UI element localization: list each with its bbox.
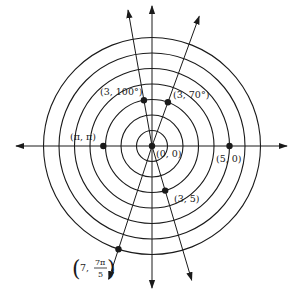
- label-7-7pi-over-5: ( 7, 7π 5 ): [72, 256, 116, 281]
- point-pi-pi: [100, 143, 106, 149]
- point-3-100deg: [141, 97, 147, 103]
- ray-100deg: [128, 10, 152, 146]
- label-origin: (0, 0): [156, 148, 182, 159]
- point-7-7pi-over-5: [115, 246, 121, 252]
- ray-5rad: [152, 146, 192, 280]
- label-3-5rad: (3, 5): [174, 193, 200, 204]
- point-origin: [149, 143, 155, 149]
- polar-diagram: (0, 0) (5, 0) (π, π) (3, 100°) (3, 70°) …: [0, 0, 294, 292]
- label-fraction-close-paren: ): [107, 256, 116, 281]
- point-3-70deg: [165, 99, 171, 105]
- label-fraction-denominator: 5: [98, 270, 103, 279]
- label-3-100deg: (3, 100°): [100, 86, 142, 97]
- point-3-5rad: [162, 187, 168, 193]
- polar-grid-canvas: (0, 0) (5, 0) (π, π) (3, 100°) (3, 70°) …: [0, 0, 294, 292]
- point-5-0: [226, 143, 232, 149]
- label-5-0: (5, 0): [216, 153, 242, 164]
- label-pi-pi: (π, π): [70, 131, 96, 142]
- label-fraction-numerator: 7π: [95, 258, 105, 267]
- label-fraction-prefix: 7,: [80, 262, 89, 273]
- label-3-70deg: (3, 70°): [173, 89, 209, 100]
- plotted-points: [100, 97, 233, 252]
